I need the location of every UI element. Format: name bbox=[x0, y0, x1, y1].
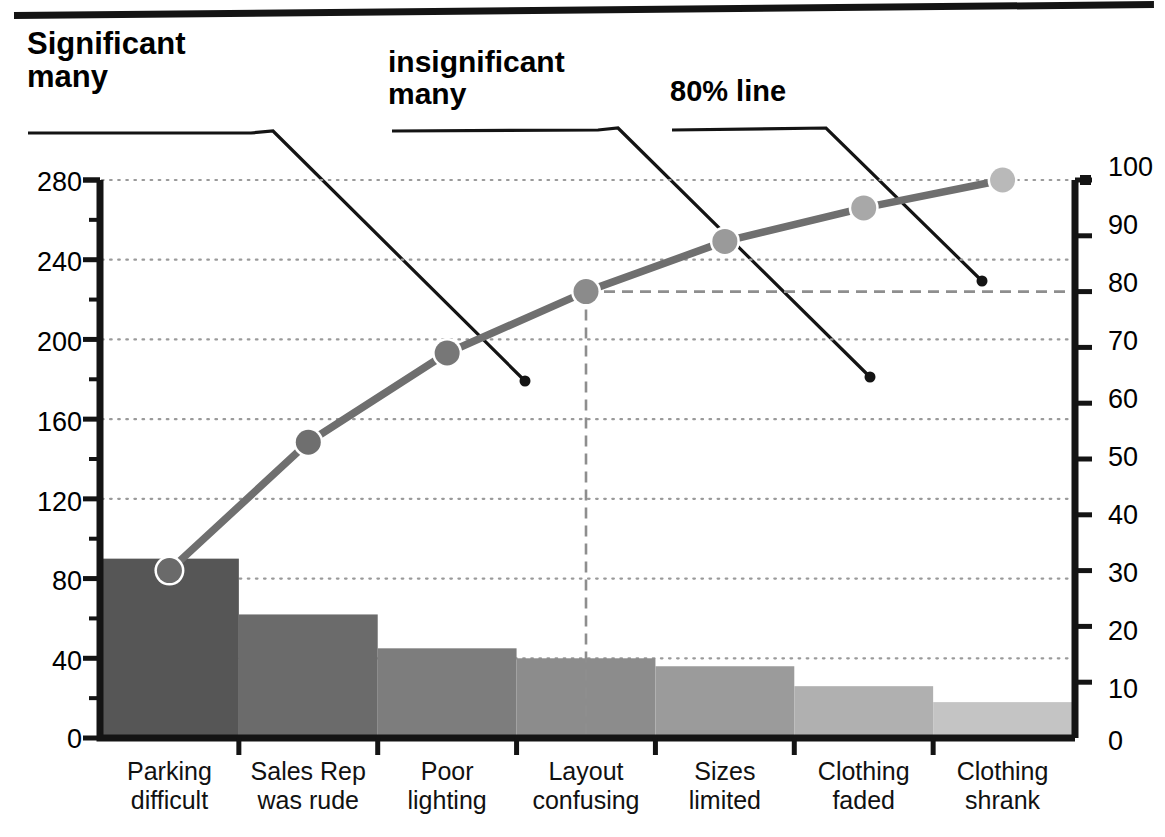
x-axis-category-0: Parkingdifficult bbox=[100, 757, 239, 815]
left-axis-tick-240: 240 bbox=[12, 247, 82, 278]
bar-4 bbox=[655, 666, 794, 738]
left-axis-tick-40: 40 bbox=[12, 646, 82, 677]
left-axis-tick-160: 160 bbox=[12, 407, 82, 438]
x-axis-category-0-line1: Parking bbox=[100, 757, 239, 786]
right-axis-tick-60: 60 bbox=[1108, 384, 1165, 415]
x-axis-category-1-line2: was rude bbox=[239, 786, 378, 815]
x-axis-category-5-line1: Clothing bbox=[794, 757, 933, 786]
x-axis-category-4: Sizeslimited bbox=[655, 757, 794, 815]
cumulative-marker-6 bbox=[990, 168, 1015, 193]
x-axis-category-2-line2: lighting bbox=[378, 786, 517, 815]
x-axis-category-6-line2: shrank bbox=[933, 786, 1072, 815]
x-axis-category-5-line2: faded bbox=[794, 786, 933, 815]
right-axis-tick-50: 50 bbox=[1108, 442, 1165, 473]
x-axis-category-3-line1: Layout bbox=[517, 757, 656, 786]
x-axis-category-6: Clothingshrank bbox=[933, 757, 1072, 815]
x-axis-category-1: Sales Repwas rude bbox=[239, 757, 378, 815]
pareto-chart-figure: Significant many insignificant many 80% … bbox=[0, 0, 1165, 837]
x-axis-category-3-line2: confusing bbox=[517, 786, 656, 815]
right-axis-tick-10: 10 bbox=[1108, 674, 1165, 705]
x-axis-category-2-line1: Poor bbox=[378, 757, 517, 786]
x-axis-category-2: Poorlighting bbox=[378, 757, 517, 815]
right-axis-tick-90: 90 bbox=[1108, 210, 1165, 241]
left-axis-tick-0: 0 bbox=[12, 724, 82, 755]
bar-5 bbox=[794, 686, 933, 738]
right-axis-tick-80: 80 bbox=[1108, 268, 1165, 299]
cumulative-marker-5 bbox=[851, 195, 876, 220]
plot-area bbox=[0, 0, 1165, 837]
x-axis-category-4-line1: Sizes bbox=[655, 757, 794, 786]
right-axis-tick-30: 30 bbox=[1108, 558, 1165, 589]
cumulative-marker-2 bbox=[435, 340, 460, 365]
x-axis-category-4-line2: limited bbox=[655, 786, 794, 815]
cumulative-marker-4 bbox=[712, 229, 737, 254]
x-axis-category-5: Clothingfaded bbox=[794, 757, 933, 815]
right-axis-top-marker bbox=[1080, 175, 1091, 185]
x-axis-category-3: Layoutconfusing bbox=[517, 757, 656, 815]
cumulative-marker-1 bbox=[296, 430, 321, 455]
x-axis-category-1-line1: Sales Rep bbox=[239, 757, 378, 786]
bar-1 bbox=[239, 614, 378, 738]
cumulative-marker-0 bbox=[157, 558, 182, 583]
bar-2 bbox=[378, 648, 517, 738]
left-axis-tick-280: 280 bbox=[12, 167, 82, 198]
left-axis-tick-80: 80 bbox=[12, 566, 82, 597]
x-axis-category-6-line1: Clothing bbox=[933, 757, 1072, 786]
left-axis-tick-120: 120 bbox=[12, 487, 82, 518]
right-axis-tick-40: 40 bbox=[1108, 500, 1165, 531]
bar-6 bbox=[933, 702, 1072, 738]
left-axis-tick-200: 200 bbox=[12, 327, 82, 358]
x-axis-category-0-line2: difficult bbox=[100, 786, 239, 815]
right-axis-tick-70: 70 bbox=[1108, 326, 1165, 357]
cumulative-marker-3 bbox=[574, 279, 599, 304]
right-axis-tick-0: 0 bbox=[1108, 726, 1165, 757]
right-axis-tick-100: 100 bbox=[1108, 152, 1165, 183]
right-axis-tick-20: 20 bbox=[1108, 616, 1165, 647]
